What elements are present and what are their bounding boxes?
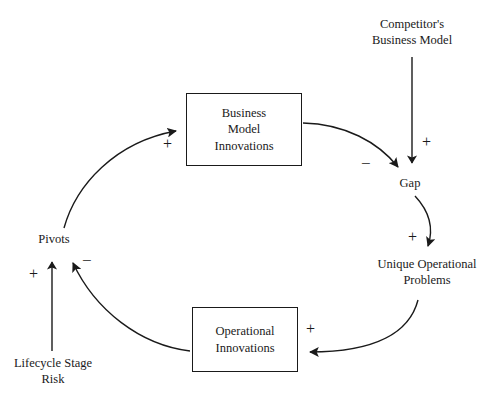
node-label-line: Risk	[4, 371, 102, 387]
node-label-line: Gap	[386, 175, 434, 191]
polarity-sign-pivots-to-bmi: +	[163, 136, 172, 152]
polarity-sign-competitor-to-gap: +	[422, 134, 431, 150]
node-gap: Gap	[386, 175, 434, 191]
polarity-sign-gap-to-uop: +	[408, 229, 417, 245]
node-label-line: Operational	[215, 323, 274, 340]
edge-oi-to-pivots	[73, 263, 190, 351]
edge-gap-to-uop	[415, 196, 431, 246]
node-label-line: Pivots	[26, 231, 82, 247]
node-label-line: Lifecycle Stage	[4, 355, 102, 371]
node-unique-operational-problems: Unique Operational Problems	[366, 256, 488, 289]
node-label-line: Competitor's	[348, 16, 476, 32]
node-label-line: Problems	[366, 272, 488, 288]
node-label-line: Model	[228, 121, 261, 138]
edge-uop-to-oi	[310, 300, 418, 352]
edge-pivots-to-bmi	[64, 131, 176, 228]
node-label-line: Business Model	[348, 32, 476, 48]
node-pivots: Pivots	[26, 231, 82, 247]
edge-bmi-to-gap	[303, 123, 398, 167]
node-business-model-innovations: Business Model Innovations	[186, 93, 302, 166]
node-label-line: Innovations	[214, 138, 273, 155]
node-label-line: Business	[222, 105, 266, 122]
polarity-sign-bmi-to-gap: −	[361, 155, 371, 172]
node-lifecycle-stage-risk: Lifecycle Stage Risk	[4, 355, 102, 388]
polarity-sign-lifecycle-to-pivots: +	[29, 266, 38, 282]
node-operational-innovations: Operational Innovations	[192, 307, 298, 372]
node-competitors-business-model: Competitor's Business Model	[348, 16, 476, 49]
polarity-sign-uop-to-oi: +	[306, 321, 315, 337]
causal-loop-diagram: Competitor's Business Model Business Mod…	[0, 0, 490, 407]
polarity-sign-oi-to-pivots: −	[82, 252, 92, 269]
node-label-line: Unique Operational	[366, 256, 488, 272]
node-label-line: Innovations	[215, 340, 274, 357]
